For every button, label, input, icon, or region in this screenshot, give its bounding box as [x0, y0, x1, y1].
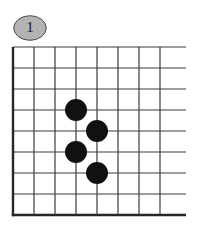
go-stone-black	[65, 141, 87, 163]
go-stone-black	[86, 120, 108, 142]
board-stones	[65, 99, 108, 184]
go-stone-black	[65, 99, 87, 121]
go-stone-black	[86, 162, 108, 184]
figure-number-label: 1	[26, 20, 34, 36]
diagram-root: 1	[0, 0, 198, 233]
